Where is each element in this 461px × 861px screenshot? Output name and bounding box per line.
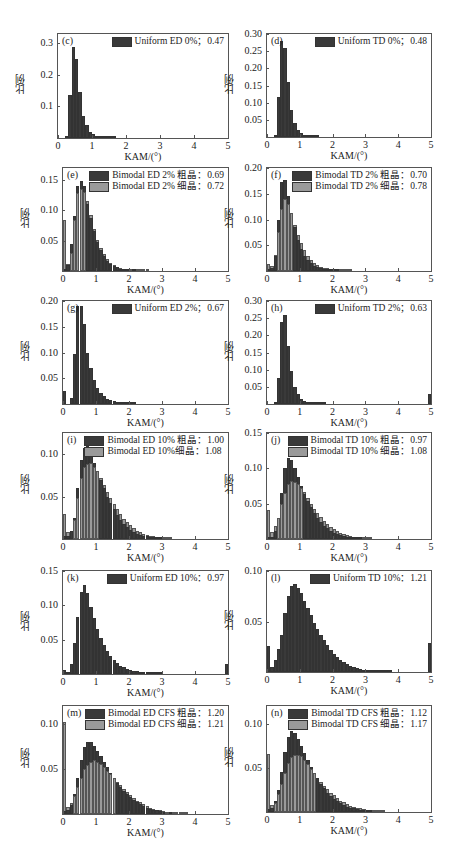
x-tick-label: 3 bbox=[155, 541, 169, 552]
histogram-bar bbox=[185, 812, 188, 814]
histogram-bar bbox=[323, 402, 326, 404]
y-tick-mark bbox=[62, 605, 65, 606]
x-tick-mark bbox=[300, 134, 301, 137]
legend-label: Bimodal ED 2% 粗晶：0.69 bbox=[112, 170, 224, 181]
y-tick-mark bbox=[266, 68, 269, 69]
x-tick-mark bbox=[398, 536, 399, 539]
histogram-bar bbox=[169, 537, 172, 539]
x-tick-label: 4 bbox=[188, 541, 202, 552]
y-tick-mark bbox=[266, 194, 269, 195]
legend-label: Bimodal ED CFS 粗晶：1.20 bbox=[108, 708, 224, 719]
x-tick-label: 0 bbox=[260, 406, 274, 417]
panel-label: (e) bbox=[67, 169, 78, 180]
y-tick-label: 0.20 bbox=[30, 295, 58, 306]
x-tick-label: 5 bbox=[424, 541, 438, 552]
x-tick-label: 5 bbox=[221, 273, 235, 284]
x-tick-mark bbox=[63, 671, 64, 674]
x-tick-mark bbox=[431, 669, 432, 672]
x-tick-label: 3 bbox=[358, 139, 372, 150]
y-tick-label: 0.15 bbox=[234, 347, 262, 358]
legend-swatch bbox=[85, 720, 105, 730]
y-tick-label: 0.2 bbox=[25, 69, 53, 80]
legend-label: Bimodal TD CFS 细晶：1.17 bbox=[311, 719, 427, 730]
y-tick-label: 0.15 bbox=[30, 174, 58, 185]
y-tick-mark bbox=[266, 571, 269, 572]
y-tick-mark bbox=[57, 75, 60, 76]
panel-label: (m) bbox=[67, 707, 81, 718]
legend-swatch bbox=[84, 447, 104, 457]
x-axis-label: KAM/(°) bbox=[106, 687, 186, 698]
y-tick-label: 0.15 bbox=[30, 321, 58, 332]
x-tick-label: 1 bbox=[293, 406, 307, 417]
x-tick-label: 1 bbox=[89, 676, 103, 687]
y-tick-label: 0.05 bbox=[234, 616, 262, 627]
x-tick-label: 4 bbox=[188, 406, 202, 417]
y-tick-mark bbox=[266, 103, 269, 104]
panel-label: (f) bbox=[271, 169, 281, 180]
x-tick-mark bbox=[431, 134, 432, 137]
y-tick-mark bbox=[266, 120, 269, 121]
y-axis-label: 比例 bbox=[222, 208, 237, 228]
legend-swatch bbox=[288, 436, 308, 446]
y-tick-label: 0.15 bbox=[30, 565, 58, 576]
y-tick-mark bbox=[62, 210, 65, 211]
x-tick-mark bbox=[129, 671, 130, 674]
y-tick-label: 0.05 bbox=[30, 763, 58, 774]
x-tick-label: 3 bbox=[153, 140, 167, 151]
legend-label: Uniform ED 10%：0.97 bbox=[130, 573, 224, 584]
x-tick-mark bbox=[228, 268, 229, 271]
x-tick-label: 0 bbox=[260, 674, 274, 685]
y-tick-label: 0.20 bbox=[234, 329, 262, 340]
x-tick-label: 2 bbox=[122, 676, 136, 687]
x-tick-label: 0 bbox=[56, 676, 70, 687]
x-tick-mark bbox=[333, 401, 334, 404]
y-tick-mark bbox=[62, 301, 65, 302]
legend-label: Uniform ED 2%；0.67 bbox=[135, 303, 224, 314]
legend-entry: Bimodal ED 2% 粗晶：0.69 bbox=[89, 170, 224, 181]
histogram-bar bbox=[267, 754, 270, 812]
legend-label: Bimodal TD CFS 粗晶：1.12 bbox=[311, 708, 427, 719]
plot-area: (c)Uniform ED 0%；0.47 bbox=[57, 33, 229, 139]
x-tick-label: 3 bbox=[155, 816, 169, 827]
y-tick-mark bbox=[62, 769, 65, 770]
x-tick-mark bbox=[431, 268, 432, 271]
x-axis-label: KAM/(°) bbox=[309, 552, 389, 563]
y-tick-mark bbox=[266, 301, 269, 302]
x-tick-mark bbox=[333, 809, 334, 812]
x-tick-label: 0 bbox=[56, 541, 70, 552]
x-tick-label: 1 bbox=[89, 541, 103, 552]
y-tick-mark bbox=[57, 43, 60, 44]
x-tick-mark bbox=[267, 809, 268, 812]
y-axis-label: 比例 bbox=[222, 610, 237, 630]
y-tick-mark bbox=[62, 241, 65, 242]
x-tick-label: 2 bbox=[122, 816, 136, 827]
x-tick-label: 4 bbox=[391, 541, 405, 552]
x-tick-label: 3 bbox=[358, 541, 372, 552]
y-tick-label: 0.3 bbox=[25, 37, 53, 48]
y-tick-label: 0.05 bbox=[234, 762, 262, 773]
x-tick-label: 4 bbox=[188, 273, 202, 284]
x-tick-label: 4 bbox=[187, 140, 201, 151]
x-axis-label: KAM/(°) bbox=[106, 552, 186, 563]
x-tick-mark bbox=[162, 268, 163, 271]
y-tick-label: 0.10 bbox=[234, 718, 262, 729]
x-tick-mark bbox=[126, 135, 127, 138]
x-tick-label: 3 bbox=[155, 406, 169, 417]
x-tick-mark bbox=[96, 536, 97, 539]
legend-swatch bbox=[315, 304, 335, 314]
panel-label: (c) bbox=[62, 35, 73, 46]
x-tick-mark bbox=[92, 135, 93, 138]
x-tick-mark bbox=[300, 536, 301, 539]
x-tick-mark bbox=[162, 811, 163, 814]
legend: Bimodal TD 10% 粗晶：0.97Bimodal TD 10% 细晶：… bbox=[288, 435, 427, 457]
x-tick-label: 3 bbox=[155, 273, 169, 284]
x-tick-label: 5 bbox=[221, 676, 235, 687]
x-tick-mark bbox=[398, 134, 399, 137]
x-tick-label: 2 bbox=[122, 273, 136, 284]
y-tick-mark bbox=[266, 768, 269, 769]
x-tick-mark bbox=[300, 809, 301, 812]
legend-entry: Bimodal ED CFS 粗晶：1.20 bbox=[85, 708, 224, 719]
legend-entry: Bimodal ED 10% 粗晶：1.00 bbox=[84, 435, 224, 446]
panel-label: (g) bbox=[67, 302, 79, 313]
x-tick-mark bbox=[228, 671, 229, 674]
